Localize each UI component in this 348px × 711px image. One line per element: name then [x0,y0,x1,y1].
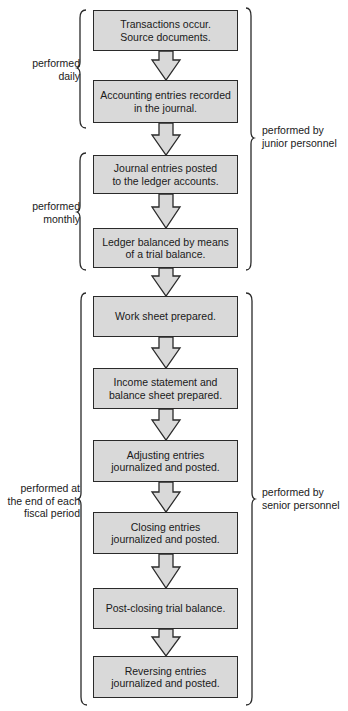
right-brace-junior [246,8,254,270]
arrow-down-icon [152,268,180,296]
step-box-posting: Journal entries posted to the ledger acc… [93,155,238,194]
step-box-trial-balance: Ledger balanced by means of a trial bala… [93,228,238,268]
step-box-adjusting-entries: Adjusting entries journalized and posted… [93,440,238,482]
arrow-down-icon [152,194,180,228]
arrow-down-icon [152,629,180,656]
step-box-financial-statements: Income statement and balance sheet prepa… [93,368,238,409]
step-box-journal-entries: Accounting entries recorded in the journ… [93,80,238,123]
label-performed-monthly: performed monthly [32,200,80,225]
arrow-down-icon [152,482,180,512]
label-performed-fiscal-period: performed at the end of each fiscal peri… [8,482,80,520]
arrow-down-icon [152,51,180,80]
right-brace-senior [246,293,255,705]
step-box-work-sheet: Work sheet prepared. [93,296,238,337]
label-performed-daily: performed daily [32,57,80,82]
step-box-closing-entries: Closing entries journalized and posted. [93,512,238,554]
label-senior-personnel: performed by senior personnel [262,486,340,511]
arrow-icons [152,51,180,656]
label-junior-personnel: performed by junior personnel [262,124,337,149]
arrow-down-icon [152,554,180,588]
step-box-post-closing: Post-closing trial balance. [93,588,238,629]
arrow-down-icon [152,123,180,155]
step-box-reversing-entries: Reversing entries journalized and posted… [93,656,238,698]
arrow-down-icon [152,409,180,440]
arrow-down-icon [152,337,180,368]
step-box-transactions: Transactions occur. Source documents. [93,10,238,51]
